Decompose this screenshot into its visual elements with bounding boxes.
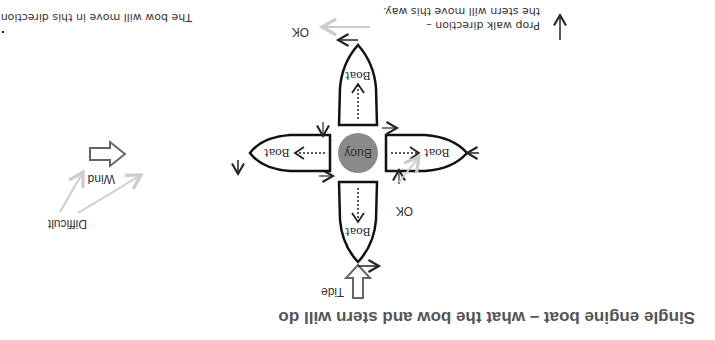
bow-move-note: The bow will move in this direction.	[0, 11, 193, 24]
boat-top: Boat	[339, 182, 377, 262]
svg-text:Boat: Boat	[264, 146, 290, 159]
wind-label: Wind	[88, 172, 115, 186]
prop-walk-note-line2: the stern will move this way.	[383, 5, 540, 18]
svg-text:Boat: Boat	[424, 146, 450, 159]
boat-right: Boat	[250, 135, 330, 171]
buoy-label: Buoy	[344, 146, 371, 160]
diagram-title: Single engine boat – what the bow and st…	[278, 308, 695, 327]
boat-left: Boat	[386, 135, 467, 171]
tide-arrow-icon	[346, 265, 370, 298]
svg-text:Boat: Boat	[345, 225, 371, 238]
hint-arrow-icon	[60, 172, 83, 212]
tide-label: Tide	[321, 285, 344, 299]
difficult-label: Difficult	[47, 217, 87, 231]
svg-text:Boat: Boat	[345, 69, 371, 82]
prop-walk-note-line1: Prop walk direction –	[426, 19, 540, 32]
boat-maneuver-diagram: Single engine boat – what the bow and st…	[0, 0, 715, 340]
ok-label-left: OK	[396, 204, 413, 218]
ok-label-bottom: OK	[292, 25, 309, 39]
wind-arrow-icon	[90, 142, 125, 166]
diagram-stage: Single engine boat – what the bow and st…	[0, 0, 715, 340]
boat-bottom: Boat	[339, 45, 377, 125]
